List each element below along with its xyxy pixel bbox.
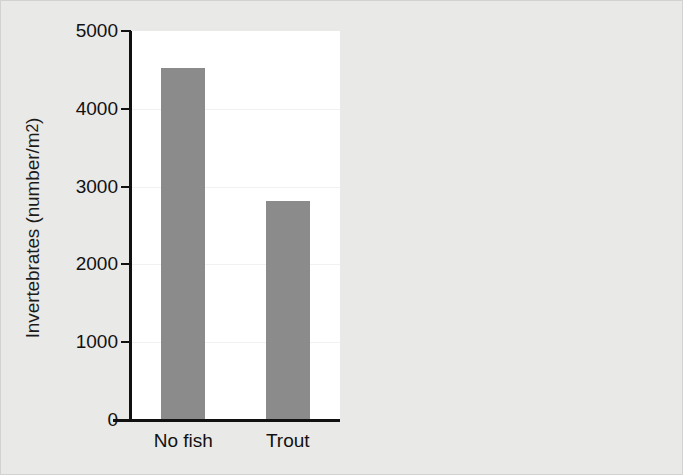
figure-container: Invertebrates (number/m2) 01000200030004… xyxy=(0,0,683,475)
x-axis-category-labels-invertebrates: No fishTrout xyxy=(131,430,340,458)
y-tick-label: 5000 xyxy=(76,20,118,42)
y-axis-line-invertebrates xyxy=(129,31,132,422)
plot-area-invertebrates xyxy=(131,31,340,420)
y-axis-title-superscript: 2 xyxy=(24,124,42,133)
chart-panel-invertebrates: Invertebrates (number/m2) 01000200030004… xyxy=(0,0,355,475)
y-axis-title-suffix: ) xyxy=(22,118,44,124)
y-tick-label: 1000 xyxy=(76,331,118,353)
y-axis-title-invertebrates: Invertebrates (number/m2) xyxy=(20,28,46,428)
chart-panel-algae: Algae (µg chlorophyll a/cm2) 00.51.01.52… xyxy=(341,0,683,475)
bar xyxy=(266,201,310,420)
y-tick-label: 2000 xyxy=(76,253,118,275)
x-category-label: No fish xyxy=(154,430,213,452)
y-axis-title-text: Invertebrates (number/m xyxy=(22,133,44,339)
x-category-label: Trout xyxy=(266,430,310,452)
bar xyxy=(161,68,205,420)
y-axis-tick-labels-invertebrates: 010002000300040005000 xyxy=(56,0,118,475)
y-tick-label: 4000 xyxy=(76,98,118,120)
y-tick-label: 3000 xyxy=(76,176,118,198)
x-axis-line-invertebrates xyxy=(113,419,340,422)
